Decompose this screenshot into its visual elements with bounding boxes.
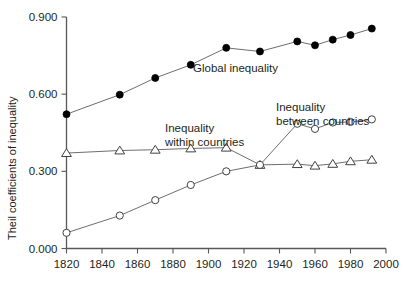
data-point-inequality-between-countries xyxy=(223,168,230,175)
x-tick-label: 1880 xyxy=(160,258,186,270)
x-tick-label: 1980 xyxy=(338,258,364,270)
y-tick-label: 0.600 xyxy=(29,88,58,100)
data-point-global-inequality xyxy=(294,38,301,45)
y-axis-ticks xyxy=(62,17,67,249)
data-point-inequality-within-countries xyxy=(292,160,302,168)
data-point-global-inequality xyxy=(223,44,230,51)
x-tick-label: 1960 xyxy=(302,258,328,270)
y-tick-label: 0.000 xyxy=(29,243,58,255)
data-point-inequality-between-countries xyxy=(63,229,70,236)
x-tick-label: 1860 xyxy=(125,258,151,270)
data-point-global-inequality xyxy=(63,111,70,118)
chart-container: Theil coefficients of inequality 0.0000.… xyxy=(0,0,404,287)
data-point-global-inequality xyxy=(116,91,123,98)
data-point-inequality-between-countries xyxy=(152,197,159,204)
annotation-within-countries-line1: Inequality xyxy=(165,122,214,134)
y-axis-tick-labels: 0.0000.3000.6000.900 xyxy=(29,11,58,255)
data-point-global-inequality xyxy=(152,74,159,81)
data-point-inequality-between-countries xyxy=(116,212,123,219)
data-point-inequality-between-countries xyxy=(187,181,194,188)
annotation-between-countries-line2: between countries xyxy=(276,115,370,127)
x-tick-label: 1840 xyxy=(89,258,115,270)
x-tick-label: 1920 xyxy=(231,258,257,270)
x-tick-label: 2000 xyxy=(373,258,399,270)
series-lines xyxy=(67,29,372,233)
series-line-inequality-within-countries xyxy=(67,148,372,166)
annotation-between-countries-line1: Inequality xyxy=(276,101,325,113)
annotation-within-countries-line2: within countries xyxy=(164,136,245,148)
data-point-inequality-between-countries xyxy=(256,161,263,168)
data-point-global-inequality xyxy=(347,32,354,39)
theil-inequality-line-chart: Theil coefficients of inequality 0.0000.… xyxy=(0,0,404,287)
series-markers xyxy=(62,25,377,236)
data-point-global-inequality xyxy=(368,25,375,32)
data-point-global-inequality xyxy=(312,42,319,49)
annotation-global-inequality: Global inequality xyxy=(193,62,278,74)
data-point-inequality-within-countries xyxy=(367,155,377,163)
y-tick-label: 0.900 xyxy=(29,11,58,23)
y-axis-title-group: Theil coefficients of inequality xyxy=(6,96,18,240)
data-point-global-inequality xyxy=(256,48,263,55)
x-axis-ticks xyxy=(67,249,387,254)
x-axis-tick-labels: 1820184018601880190019201940196019802000 xyxy=(54,258,399,270)
data-point-global-inequality xyxy=(329,36,336,43)
x-tick-label: 1940 xyxy=(267,258,293,270)
chart-annotations: Global inequality Inequality within coun… xyxy=(164,62,370,148)
x-tick-label: 1900 xyxy=(196,258,222,270)
y-tick-label: 0.300 xyxy=(29,165,58,177)
x-tick-label: 1820 xyxy=(54,258,80,270)
y-axis-title: Theil coefficients of inequality xyxy=(6,96,18,240)
